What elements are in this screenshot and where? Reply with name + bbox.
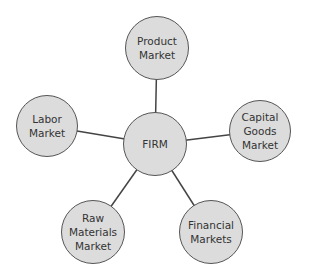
node-label-financial-markets: Financial Markets <box>188 218 234 246</box>
node-label-raw-materials-market: Raw Materials Market <box>69 211 117 253</box>
node-labor-market: Labor Market <box>16 95 78 157</box>
node-financial-markets: Financial Markets <box>179 200 243 264</box>
node-firm: FIRM <box>123 112 187 176</box>
node-label-product-market: Product Market <box>137 34 177 62</box>
node-label-labor-market: Labor Market <box>29 112 65 140</box>
node-raw-materials-market: Raw Materials Market <box>61 200 125 264</box>
node-label-capital-goods-market: Capital Goods Market <box>242 110 279 152</box>
node-capital-goods-market: Capital Goods Market <box>229 100 291 162</box>
node-label-firm: FIRM <box>142 137 168 151</box>
node-product-market: Product Market <box>125 16 189 80</box>
